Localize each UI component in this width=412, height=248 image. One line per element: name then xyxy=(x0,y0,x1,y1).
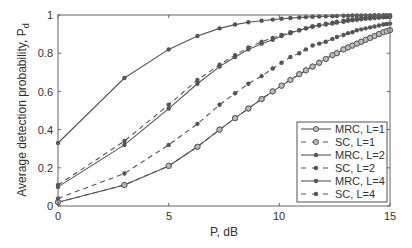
data-point-marker xyxy=(310,64,315,69)
data-point-marker xyxy=(346,31,350,35)
legend-marker-sample xyxy=(314,179,318,183)
ytick-label-0: 0 xyxy=(47,200,53,212)
data-point-marker xyxy=(350,13,354,17)
data-point-marker xyxy=(341,14,345,18)
data-point-marker xyxy=(346,18,350,22)
data-point-marker xyxy=(166,106,170,110)
legend-label-sc-l4: SC, L=4 xyxy=(335,188,375,200)
data-point-marker xyxy=(297,15,301,19)
legend-label-sc-l2: SC, L=2 xyxy=(335,162,375,174)
data-point-marker xyxy=(122,76,126,80)
data-point-marker xyxy=(350,30,354,34)
data-point-marker xyxy=(317,23,321,27)
data-point-marker xyxy=(122,182,127,187)
legend-marker-sample xyxy=(313,139,318,144)
data-point-marker xyxy=(368,15,372,19)
data-point-marker xyxy=(279,33,283,37)
data-point-marker xyxy=(217,127,222,132)
data-point-marker xyxy=(303,68,308,73)
legend-marker-sample xyxy=(314,192,318,196)
data-point-marker xyxy=(288,16,292,20)
data-point-marker xyxy=(246,82,250,86)
data-point-marker xyxy=(335,35,339,39)
data-point-marker xyxy=(288,30,292,34)
data-point-marker xyxy=(195,34,199,38)
data-point-marker xyxy=(259,19,263,23)
data-point-marker xyxy=(270,36,274,40)
data-point-marker xyxy=(195,122,199,126)
xtick-label-15: 15 xyxy=(384,210,396,222)
legend-label-sc-l1: SC, L=1 xyxy=(335,136,375,148)
y-axis-label: Average detection probability, Pd xyxy=(15,23,31,196)
data-point-marker xyxy=(363,16,367,20)
data-point-marker xyxy=(304,26,308,30)
data-point-marker xyxy=(310,24,314,28)
data-point-marker xyxy=(297,72,302,77)
data-point-marker xyxy=(377,23,381,27)
data-point-marker xyxy=(195,144,200,149)
data-point-marker xyxy=(334,51,339,56)
data-point-marker xyxy=(304,15,308,19)
data-point-marker xyxy=(166,163,171,168)
data-point-marker xyxy=(372,24,376,28)
x-axis-label: P, dB xyxy=(210,225,238,239)
y-axis-label-main: Average detection probability, P xyxy=(15,28,29,196)
data-point-marker xyxy=(195,78,199,82)
data-point-marker xyxy=(324,40,328,44)
data-point-marker xyxy=(317,60,322,65)
line-chart: 0 0.2 0.4 0.6 0.8 1 0 5 10 15 P, dB Aver… xyxy=(0,0,412,248)
data-point-marker xyxy=(297,51,301,55)
data-point-marker xyxy=(355,17,359,21)
data-point-marker xyxy=(279,83,284,88)
data-point-marker xyxy=(166,47,170,51)
data-point-marker xyxy=(279,61,283,65)
data-point-marker xyxy=(259,74,263,78)
data-point-marker xyxy=(323,56,328,61)
data-point-marker xyxy=(270,66,274,70)
data-point-marker xyxy=(217,103,221,107)
data-point-marker xyxy=(246,106,251,111)
data-point-marker xyxy=(341,19,345,23)
data-point-marker xyxy=(270,17,274,21)
data-point-marker xyxy=(122,139,126,143)
data-point-marker xyxy=(297,28,301,32)
data-point-marker xyxy=(232,116,237,121)
data-point-marker xyxy=(246,20,250,24)
data-point-marker xyxy=(122,143,126,147)
data-point-marker xyxy=(122,171,126,175)
data-point-marker xyxy=(324,21,328,25)
data-point-marker xyxy=(359,16,363,20)
legend-marker-sample xyxy=(314,153,318,157)
ytick-label-0.8: 0.8 xyxy=(38,47,53,59)
data-point-marker xyxy=(372,15,376,19)
data-point-marker xyxy=(330,37,334,41)
data-point-marker xyxy=(330,20,334,24)
legend: MRC, L=1 SC, L=1 MRC, L=2 SC, L=2 MRC, L… xyxy=(297,122,387,202)
data-point-marker xyxy=(279,17,283,21)
data-point-marker xyxy=(350,17,354,21)
legend-label-mrc-l2: MRC, L=2 xyxy=(335,149,385,161)
data-point-marker xyxy=(233,22,237,26)
legend-label-mrc-l4: MRC, L=4 xyxy=(335,175,385,187)
data-point-marker xyxy=(363,26,367,30)
data-point-marker xyxy=(259,40,263,44)
data-point-marker xyxy=(195,82,199,86)
data-point-marker xyxy=(346,14,350,18)
data-point-marker xyxy=(217,62,221,66)
xtick-label-5: 5 xyxy=(166,210,172,222)
ytick-label-1: 1 xyxy=(47,9,53,21)
data-point-marker xyxy=(217,26,221,30)
legend-label-mrc-l1: MRC, L=1 xyxy=(335,123,385,135)
data-point-marker xyxy=(166,143,170,147)
data-point-marker xyxy=(335,14,339,18)
data-point-marker xyxy=(341,33,345,37)
data-point-marker xyxy=(288,77,293,82)
data-point-marker xyxy=(368,25,372,29)
ytick-label-0.2: 0.2 xyxy=(38,162,53,174)
data-point-marker xyxy=(288,55,292,59)
data-point-marker xyxy=(310,43,314,47)
xtick-label-10: 10 xyxy=(273,210,285,222)
data-point-marker xyxy=(166,103,170,107)
ytick-label-0.6: 0.6 xyxy=(38,86,53,98)
legend-marker-sample xyxy=(314,166,318,170)
